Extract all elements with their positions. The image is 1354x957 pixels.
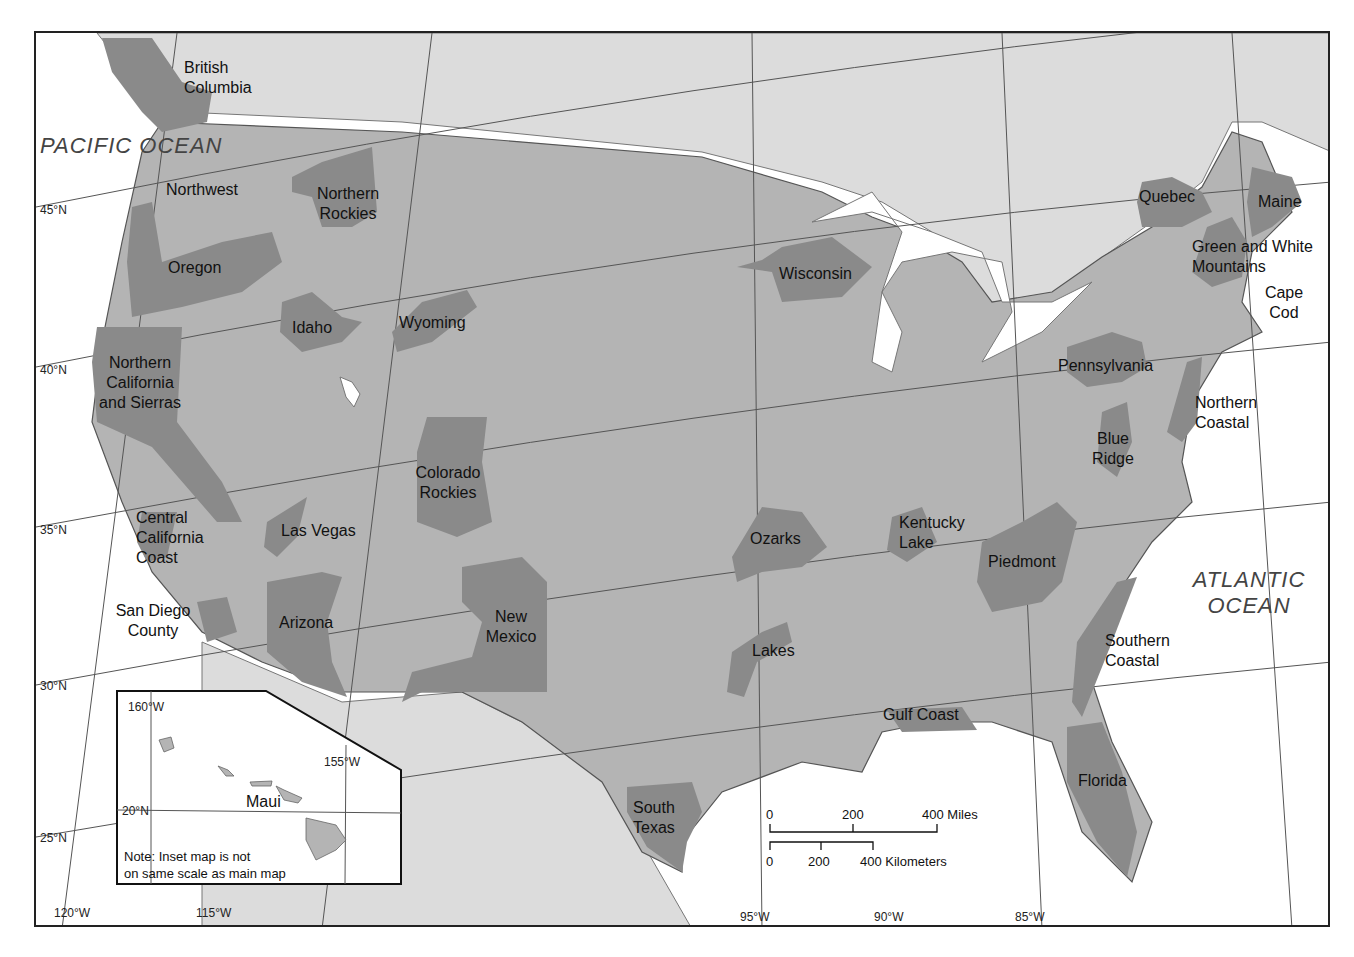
- label-northwest: Northwest: [166, 180, 238, 200]
- label-ozarks: Ozarks: [750, 529, 801, 549]
- label-southern-coastal: Southern Coastal: [1105, 631, 1185, 671]
- label-kentucky-lake: Kentucky Lake: [899, 513, 979, 553]
- label-cape-cod: Cape Cod: [1258, 283, 1310, 323]
- label-oregon: Oregon: [168, 258, 221, 278]
- label-lakes: Lakes: [752, 641, 795, 661]
- scale-bars: [770, 824, 937, 850]
- lon-90: 90°W: [874, 910, 903, 924]
- lat-40: 40°N: [40, 363, 67, 377]
- label-pennsylvania: Pennsylvania: [1058, 356, 1153, 376]
- pacific-ocean-label: PACIFIC OCEAN: [40, 133, 223, 159]
- label-central-california-coast: Central California Coast: [136, 508, 216, 568]
- inset-lon-160: 160°W: [128, 700, 164, 714]
- label-colorado-rockies: Colorado Rockies: [408, 463, 488, 503]
- lon-85: 85°W: [1015, 910, 1044, 924]
- label-northern-california: Northern California and Sierras: [92, 353, 188, 413]
- label-maine: Maine: [1258, 192, 1302, 212]
- scale-km-200: 200: [808, 854, 830, 869]
- label-south-texas: South Texas: [633, 798, 683, 838]
- lon-115: 115°W: [196, 906, 231, 920]
- inset-note-line1: Note: Inset map is not: [124, 848, 250, 865]
- label-british-columbia: British Columbia: [184, 58, 264, 98]
- label-new-mexico: New Mexico: [476, 607, 546, 647]
- label-gulf-coast: Gulf Coast: [883, 705, 959, 725]
- label-florida: Florida: [1078, 771, 1127, 791]
- lat-30: 30°N: [40, 679, 67, 693]
- lat-25: 25°N: [40, 831, 67, 845]
- label-maui: Maui: [246, 792, 281, 812]
- label-wisconsin: Wisconsin: [779, 264, 852, 284]
- lon-95: 95°W: [740, 910, 769, 924]
- label-northern-rockies: Northern Rockies: [308, 184, 388, 224]
- lat-45: 45°N: [40, 203, 67, 217]
- atlantic-ocean-label: ATLANTIC OCEAN: [1184, 567, 1314, 619]
- scale-miles-200: 200: [842, 807, 864, 822]
- label-las-vegas: Las Vegas: [281, 521, 356, 541]
- inset-lat-20: 20°N: [122, 804, 149, 818]
- label-arizona: Arizona: [279, 613, 333, 633]
- label-northern-coastal: Northern Coastal: [1195, 393, 1275, 433]
- region-florida: [1067, 722, 1137, 877]
- lon-120: 120°W: [54, 906, 90, 920]
- label-quebec: Quebec: [1139, 187, 1195, 207]
- lat-35: 35°N: [40, 523, 67, 537]
- label-wyoming: Wyoming: [399, 313, 466, 333]
- label-green-white-mountains: Green and White Mountains: [1192, 237, 1330, 277]
- inset-lon-155: 155°W: [324, 755, 360, 769]
- label-san-diego-county: San Diego County: [108, 601, 198, 641]
- scale-km-0: 0: [766, 854, 773, 869]
- label-idaho: Idaho: [292, 318, 332, 338]
- scale-km-400: 400 Kilometers: [860, 854, 947, 869]
- scale-miles-0: 0: [766, 807, 773, 822]
- inset-note-line2: on same scale as main map: [124, 865, 286, 882]
- label-blue-ridge: Blue Ridge: [1088, 429, 1138, 469]
- label-piedmont: Piedmont: [988, 552, 1056, 572]
- scale-miles-400: 400 Miles: [922, 807, 978, 822]
- hawaii-inset: 160°W 155°W 20°N Maui Note: Inset map is…: [116, 690, 406, 885]
